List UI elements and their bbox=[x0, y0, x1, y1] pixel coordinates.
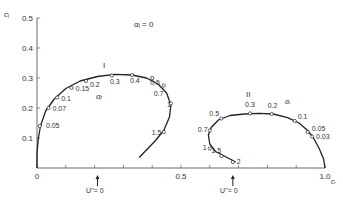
point-label: 1 bbox=[203, 144, 207, 151]
point-label: 0.05 bbox=[46, 122, 60, 129]
data-point bbox=[56, 96, 59, 99]
point-label: 0.2 bbox=[268, 102, 278, 109]
point-label: 0.4 bbox=[130, 77, 140, 84]
data-point bbox=[310, 135, 313, 138]
data-point bbox=[270, 112, 273, 115]
data-point bbox=[47, 106, 50, 109]
curve-1-name: I bbox=[103, 61, 105, 70]
data-point bbox=[208, 129, 211, 132]
point-label: 1.5 bbox=[152, 129, 162, 136]
curve-1-param-label: αᵣ bbox=[96, 92, 103, 101]
point-label: 1 bbox=[167, 101, 171, 108]
data-point bbox=[38, 124, 41, 127]
top-annotation: αᵢ = 0 bbox=[134, 20, 154, 29]
point-label: 0.15 bbox=[76, 85, 90, 92]
curve-2-param-label: αᵣ bbox=[285, 98, 291, 105]
point-label: 0.7 bbox=[198, 126, 208, 133]
point-label: 0.2 bbox=[90, 81, 100, 88]
point-label: 2 bbox=[237, 158, 241, 165]
point-label: 0.3 bbox=[245, 101, 255, 108]
point-label: 0.5 bbox=[150, 79, 160, 86]
point-label: 1.5 bbox=[211, 147, 221, 154]
point-label: 0.7 bbox=[154, 90, 164, 97]
curve-2-name: II bbox=[246, 90, 250, 99]
data-point bbox=[162, 130, 165, 133]
y-tick-label: 0.5 bbox=[22, 14, 34, 23]
point-label: 0.3 bbox=[110, 78, 120, 85]
x-tick-label: 0 bbox=[35, 172, 40, 181]
marker-1-label: U''= 0 bbox=[86, 187, 104, 194]
data-point bbox=[249, 112, 252, 115]
chart: 00.51.00.10.20.30.40.5 0.050.070.10.150.… bbox=[0, 0, 343, 204]
y-tick-label: 0.1 bbox=[22, 134, 34, 143]
arrow-head-icon bbox=[231, 175, 235, 179]
data-point bbox=[220, 117, 223, 120]
y-tick-label: 0.4 bbox=[22, 44, 34, 53]
point-label: 0.05 bbox=[312, 125, 326, 132]
marker-2-label: U''= 0 bbox=[220, 187, 238, 194]
data-point bbox=[208, 147, 211, 150]
data-point bbox=[84, 79, 87, 82]
y-axis-label: cᵢ bbox=[4, 10, 10, 19]
data-point bbox=[231, 160, 234, 163]
curve-II bbox=[208, 113, 325, 168]
data-point bbox=[220, 154, 223, 157]
point-label: 0.03 bbox=[316, 133, 330, 140]
curves: 0.050.070.10.150.20.30.40.50.711.521.510… bbox=[37, 73, 330, 168]
point-label: 0.1 bbox=[61, 95, 71, 102]
data-point bbox=[162, 84, 165, 87]
data-point bbox=[70, 86, 73, 89]
y-tick-label: 0.3 bbox=[22, 74, 34, 83]
point-label: 0.1 bbox=[298, 113, 308, 120]
y-tick-label: 0.2 bbox=[22, 104, 34, 113]
arrow-head-icon bbox=[95, 175, 99, 179]
x-tick-label: 0.5 bbox=[175, 172, 187, 181]
data-point bbox=[306, 130, 309, 133]
data-point bbox=[293, 119, 296, 122]
x-axis-label: cᵣ bbox=[331, 178, 337, 185]
x-tick-label: 1.0 bbox=[319, 172, 331, 181]
point-label: 0.07 bbox=[53, 105, 67, 112]
point-label: 0.5 bbox=[209, 110, 219, 117]
